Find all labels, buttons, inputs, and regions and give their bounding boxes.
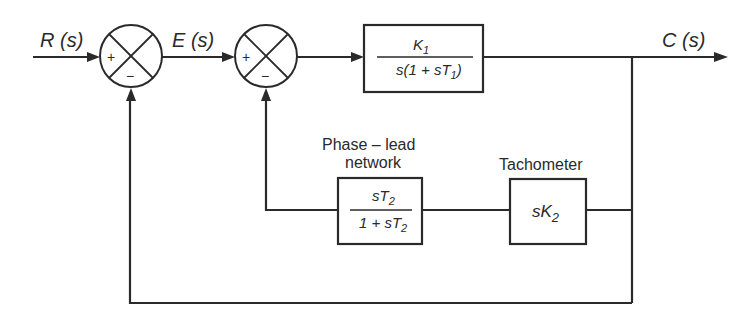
output-arrowhead — [714, 52, 728, 62]
unity-feedback-arrowhead — [126, 88, 136, 101]
tachometer-caption: Tachometer — [499, 156, 583, 173]
summing-junction-2: + − — [235, 25, 297, 87]
forward-input-arrowhead — [351, 52, 364, 62]
summing-junction-2-minus: − — [261, 68, 269, 84]
output-label: C (s) — [662, 29, 705, 51]
phase-lead-caption-line1: Phase – lead — [322, 136, 415, 153]
tachometer-block: sK2 Tachometer — [499, 156, 586, 244]
inner-feedback-wire — [266, 98, 338, 210]
error-label: E (s) — [172, 29, 214, 51]
block-diagram: R (s) + − E (s) + − K1 s(1 + sT1) — [0, 0, 751, 322]
phase-lead-caption-line2: network — [345, 154, 402, 171]
summing-junction-1-plus: + — [107, 49, 115, 65]
summing-junction-1: + − — [100, 25, 162, 87]
inner-feedback-arrowhead — [261, 88, 271, 101]
forward-block: K1 s(1 + sT1) — [364, 25, 483, 92]
input-arrowhead — [87, 52, 100, 62]
forward-block-rect — [364, 25, 483, 92]
error-signal: E (s) — [162, 29, 235, 62]
phase-lead-block: sT2 1 + sT2 Phase – lead network — [322, 136, 422, 244]
summing-junction-1-minus: − — [126, 68, 134, 84]
error-arrowhead — [222, 52, 235, 62]
summing-junction-2-plus: + — [242, 49, 250, 65]
output-signal: C (s) — [483, 29, 728, 62]
input-label: R (s) — [40, 29, 83, 51]
input-signal: R (s) — [33, 29, 100, 62]
